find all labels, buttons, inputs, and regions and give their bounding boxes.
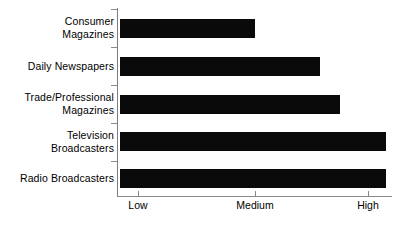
bar-series: [0, 0, 398, 196]
x-axis-label-low: Low: [128, 199, 147, 212]
x-axis-label-group: Low Medium High: [0, 199, 398, 215]
bar-radio-broadcasters: [120, 169, 386, 188]
x-axis-line: [117, 196, 392, 197]
x-axis-tick-low: [138, 191, 139, 196]
bar-trade-professional-magazines: [120, 95, 340, 114]
x-axis-tick-medium: [255, 191, 256, 196]
horizontal-bar-chart: Consumer Magazines Daily Newspapers Trad…: [0, 0, 398, 231]
bar-consumer-magazines: [120, 19, 255, 38]
x-axis-label-high: High: [357, 199, 379, 212]
x-axis-tick-high: [368, 191, 369, 196]
x-axis-label-medium: Medium: [236, 199, 273, 212]
bar-daily-newspapers: [120, 57, 320, 76]
bar-television-broadcasters: [120, 132, 386, 151]
